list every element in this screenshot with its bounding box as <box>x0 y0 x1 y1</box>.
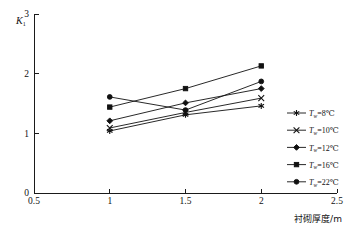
diamond-marker <box>258 86 264 92</box>
square-marker <box>294 162 298 166</box>
circle-marker <box>107 95 112 100</box>
legend-label: Tw=16℃ <box>309 161 339 171</box>
square-marker <box>183 86 187 90</box>
x-tick-label: 0.5 <box>28 196 40 206</box>
diamond-marker <box>107 118 113 124</box>
x-tick-label: 1.5 <box>180 196 192 206</box>
y-tick-label: 3 <box>24 9 29 19</box>
data-series <box>107 64 264 134</box>
chart-legend: Tw=8℃Tw=10℃Tw=12℃Tw=16℃Tw=22℃ <box>287 109 339 187</box>
circle-marker <box>259 79 264 84</box>
legend-item-3[interactable]: Tw=16℃ <box>287 161 339 171</box>
x-axis-ticks: 0.511.522.5 <box>28 189 343 206</box>
diamond-marker <box>294 145 300 151</box>
diamond-marker <box>183 100 189 106</box>
legend-label: Tw=10℃ <box>309 126 339 136</box>
line-chart: 0.511.522.5 0123 Tw=8℃Tw=10℃Tw=12℃Tw=16℃… <box>0 0 362 235</box>
legend-label: Tw=22℃ <box>309 178 339 188</box>
circle-marker <box>294 179 299 184</box>
y-tick-label: 0 <box>24 188 29 198</box>
legend-label: Tw=8℃ <box>309 109 335 119</box>
legend-item-0[interactable]: Tw=8℃ <box>287 109 335 119</box>
y-tick-label: 2 <box>24 69 29 79</box>
circle-marker <box>183 108 188 113</box>
legend-label: Tw=12℃ <box>309 144 339 154</box>
series-4 <box>107 79 263 112</box>
x-axis-title: 衬砌厚度/m <box>294 213 342 224</box>
x-tick-label: 2.5 <box>331 196 343 206</box>
legend-item-2[interactable]: Tw=12℃ <box>287 144 339 154</box>
y-axis-ticks: 0123 <box>24 9 39 198</box>
legend-item-1[interactable]: Tw=10℃ <box>287 126 339 136</box>
x-tick-label: 1 <box>107 196 112 206</box>
legend-item-4[interactable]: Tw=22℃ <box>287 178 339 188</box>
square-marker <box>108 105 112 109</box>
series-2 <box>107 86 264 124</box>
chart-figure: 0.511.522.5 0123 Tw=8℃Tw=10℃Tw=12℃Tw=16℃… <box>0 0 362 235</box>
y-tick-label: 1 <box>24 129 29 139</box>
x-tick-label: 2 <box>259 196 264 206</box>
square-marker <box>259 64 263 68</box>
